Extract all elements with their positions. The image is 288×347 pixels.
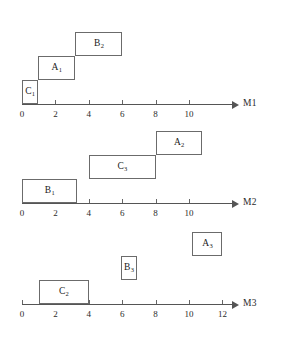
tick-label: 8 — [147, 109, 165, 119]
job-label: A3 — [202, 239, 212, 249]
job-label-base: C — [25, 86, 31, 96]
axis-line-m1 — [22, 104, 232, 105]
job-label-subscript: 3 — [131, 266, 134, 273]
job-block-c2: C2 — [39, 280, 89, 304]
axis-arrow-icon-m3 — [232, 301, 239, 309]
job-label-base: A — [52, 62, 59, 72]
job-label: B1 — [45, 186, 55, 196]
tick-label: 10 — [180, 208, 198, 218]
tick-label: 12 — [213, 309, 231, 319]
axis-line-m3 — [22, 304, 232, 305]
tick-mark — [55, 100, 56, 104]
job-label: C2 — [59, 287, 69, 297]
job-label: C1 — [25, 87, 35, 97]
tick-label: 0 — [13, 109, 31, 119]
tick-label: 10 — [180, 109, 198, 119]
job-label-base: C — [59, 286, 65, 296]
tick-label: 2 — [46, 109, 64, 119]
gantt-diagram: M10246810C1A1B2M20246810B1C3A2M302468101… — [0, 0, 288, 347]
tick-label: 4 — [80, 109, 98, 119]
axis-arrow-icon-m1 — [232, 101, 239, 109]
job-label: A1 — [52, 63, 62, 73]
tick-mark — [189, 199, 190, 203]
job-label-base: C — [117, 161, 123, 171]
job-label-subscript: 1 — [32, 90, 35, 97]
job-block-a3: A3 — [192, 232, 222, 256]
tick-label: 8 — [147, 309, 165, 319]
tick-label: 8 — [147, 208, 165, 218]
axis-line-m2 — [22, 203, 232, 204]
job-block-c3: C3 — [89, 155, 156, 179]
job-label: C3 — [117, 162, 127, 172]
tick-label: 0 — [13, 309, 31, 319]
job-block-b1: B1 — [22, 179, 77, 203]
job-label: A2 — [174, 138, 184, 148]
job-label-subscript: 3 — [124, 165, 127, 172]
tick-mark — [122, 300, 123, 304]
tick-label: 10 — [180, 309, 198, 319]
tick-label: 0 — [13, 208, 31, 218]
tick-mark — [89, 100, 90, 104]
tick-mark — [189, 100, 190, 104]
job-block-a1: A1 — [38, 56, 76, 80]
axis-label-m1: M1 — [243, 98, 257, 108]
job-label-base: A — [174, 137, 181, 147]
job-label-subscript: 1 — [59, 66, 62, 73]
tick-mark — [122, 199, 123, 203]
tick-mark — [189, 300, 190, 304]
job-label-subscript: 2 — [101, 42, 104, 49]
axis-label-m2: M2 — [243, 197, 257, 207]
job-label-base: B — [94, 38, 100, 48]
axis-arrow-icon-m2 — [232, 200, 239, 208]
job-label: B3 — [124, 263, 134, 273]
tick-label: 4 — [80, 208, 98, 218]
tick-label: 6 — [113, 309, 131, 319]
tick-label: 2 — [46, 309, 64, 319]
job-label-subscript: 3 — [209, 242, 212, 249]
tick-mark — [156, 300, 157, 304]
tick-label: 6 — [113, 208, 131, 218]
tick-mark — [222, 300, 223, 304]
tick-mark — [122, 100, 123, 104]
tick-mark — [89, 199, 90, 203]
tick-mark — [156, 199, 157, 203]
tick-mark — [156, 100, 157, 104]
job-label-subscript: 2 — [66, 290, 69, 297]
axis-label-m3: M3 — [243, 298, 257, 308]
job-label-subscript: 1 — [51, 189, 54, 196]
tick-label: 4 — [80, 309, 98, 319]
tick-label: 6 — [113, 109, 131, 119]
job-block-b2: B2 — [75, 32, 122, 56]
job-label: B2 — [94, 39, 104, 49]
job-label-subscript: 2 — [181, 141, 184, 148]
tick-mark — [89, 300, 90, 304]
tick-mark — [22, 300, 23, 304]
job-block-a2: A2 — [156, 131, 203, 155]
tick-label: 2 — [46, 208, 64, 218]
job-block-c1: C1 — [22, 80, 38, 104]
job-label-base: B — [124, 262, 130, 272]
job-block-b3: B3 — [121, 256, 138, 280]
